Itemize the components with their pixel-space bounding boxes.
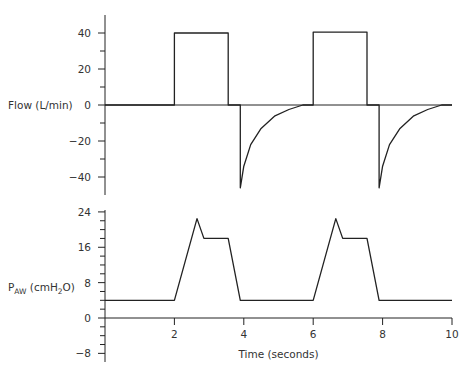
flow-y-axis-label: Flow (L/min) — [8, 99, 73, 111]
x-tick-label: 2 — [171, 328, 178, 340]
y-tick-label: 20 — [78, 63, 91, 75]
y-tick-label: 40 — [78, 27, 91, 39]
y-tick-label: 16 — [78, 241, 92, 253]
y-tick-label: −40 — [69, 171, 91, 183]
paw-y-axis-label: PAW (cmH2O) — [8, 281, 75, 296]
series-line — [105, 219, 452, 301]
series-line — [105, 32, 452, 188]
ventilator-waveform-chart: 40200−20−40Flow (L/min) 241680−8246810Ti… — [0, 0, 468, 370]
y-tick-label: −20 — [69, 135, 91, 147]
flow-panel: 40200−20−40Flow (L/min) — [8, 15, 452, 195]
x-tick-label: 8 — [379, 328, 386, 340]
y-tick-label: 0 — [84, 312, 91, 324]
y-tick-label: 8 — [84, 277, 91, 289]
x-tick-label: 6 — [310, 328, 317, 340]
x-axis-label: Time (seconds) — [237, 348, 318, 360]
y-tick-label: 24 — [78, 206, 92, 218]
y-tick-label: 0 — [84, 99, 91, 111]
airway-pressure-panel: 241680−8246810Time (seconds)PAW (cmH2O) — [8, 206, 459, 362]
x-tick-label: 4 — [240, 328, 247, 340]
y-tick-label: −8 — [76, 347, 91, 359]
x-tick-label: 10 — [445, 328, 458, 340]
